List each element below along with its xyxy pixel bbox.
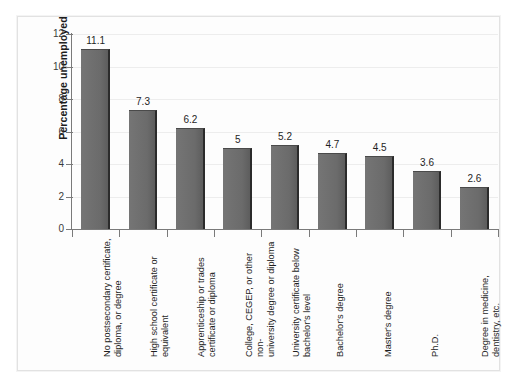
- bar: [460, 187, 488, 229]
- x-tick-mark: [451, 230, 452, 237]
- bar: [413, 171, 441, 230]
- chart-figure: Percentage unemployed 024681012 No posts…: [0, 0, 525, 392]
- gridline: [72, 67, 498, 68]
- bar-value-label: 2.6: [454, 174, 494, 184]
- category-label: University certificate below bachelor's …: [291, 233, 313, 357]
- y-tick-label: 8: [38, 94, 64, 104]
- y-tick-mark: [66, 197, 73, 198]
- y-tick-mark: [66, 164, 73, 165]
- bar-value-label: 11.1: [76, 36, 116, 46]
- y-tick-label: 10: [38, 62, 64, 72]
- x-tick-mark: [356, 230, 357, 237]
- bar-value-label: 5.2: [265, 132, 305, 142]
- y-axis-title: Percentage unemployed: [57, 0, 69, 163]
- bar: [176, 128, 204, 229]
- bar-value-label: 6.2: [170, 115, 210, 125]
- bar-value-label: 5: [218, 135, 258, 145]
- bar: [271, 145, 299, 230]
- y-tick-label: 6: [38, 127, 64, 137]
- category-label: Master's degree: [383, 233, 394, 357]
- category-label: No postsecondary certificate, diploma, o…: [102, 233, 124, 357]
- category-label: Apprenticeship or trades certificate or …: [196, 233, 218, 357]
- x-tick-mark: [72, 230, 73, 237]
- bar: [318, 153, 346, 229]
- y-tick-mark: [66, 34, 73, 35]
- x-tick-mark: [403, 230, 404, 237]
- x-axis-line: [71, 229, 499, 230]
- category-label: Bachelor's degree: [335, 233, 346, 357]
- bar: [129, 110, 157, 229]
- category-label: College, CEGEP, or other non- university…: [244, 233, 277, 357]
- bar-value-label: 4.7: [312, 140, 352, 150]
- chart-frame: Percentage unemployed 024681012 No posts…: [17, 16, 500, 371]
- y-tick-mark: [66, 132, 73, 133]
- bar-value-label: 7.3: [123, 97, 163, 107]
- bar: [365, 156, 393, 229]
- y-tick-label: 2: [38, 192, 64, 202]
- bar: [223, 148, 251, 229]
- y-tick-mark: [66, 99, 73, 100]
- y-tick-label: 12: [38, 29, 64, 39]
- y-tick-label: 0: [38, 224, 64, 234]
- category-label: Degree in medicine, dentistry, etc.: [480, 233, 502, 357]
- y-tick-label: 4: [38, 159, 64, 169]
- gridline: [72, 34, 498, 35]
- category-label: High school certificate or equivalent: [149, 233, 171, 357]
- bar-value-label: 3.6: [407, 158, 447, 168]
- bar-value-label: 4.5: [360, 143, 400, 153]
- bar: [81, 49, 109, 229]
- y-tick-mark: [66, 67, 73, 68]
- category-label: Ph.D.: [430, 233, 441, 357]
